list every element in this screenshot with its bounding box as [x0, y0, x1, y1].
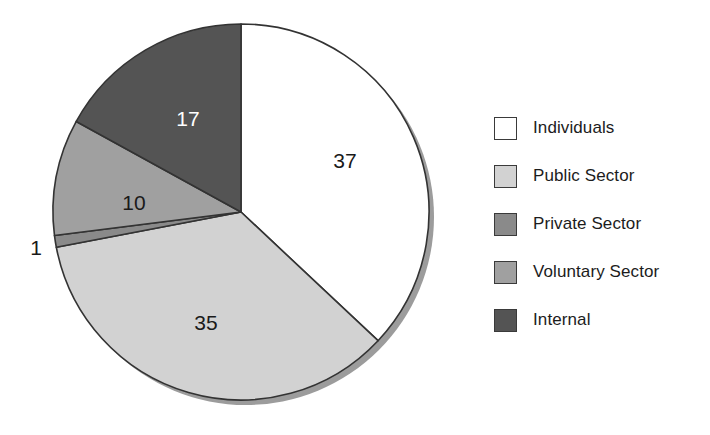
- pie-slices: [53, 24, 429, 400]
- legend-item-label: Individuals: [533, 118, 614, 138]
- legend-item-voluntary-sector[interactable]: Voluntary Sector: [494, 248, 704, 296]
- legend-item-label: Voluntary Sector: [533, 262, 659, 282]
- legend-swatch-icon: [494, 117, 517, 140]
- legend-item-private-sector[interactable]: Private Sector: [494, 200, 704, 248]
- legend-item-public-sector[interactable]: Public Sector: [494, 152, 704, 200]
- legend-item-label: Private Sector: [533, 214, 641, 234]
- legend-swatch-icon: [494, 309, 517, 332]
- legend-item-label: Internal: [533, 310, 591, 330]
- pie-slice-value-label: 1: [30, 236, 42, 259]
- pie-slice-value-label: 17: [176, 107, 199, 130]
- legend-item-internal[interactable]: Internal: [494, 296, 704, 344]
- pie-chart-figure: 373511017 Individuals Public Sector Priv…: [0, 0, 710, 435]
- pie-slice-value-label: 37: [333, 149, 356, 172]
- legend-swatch-icon: [494, 165, 517, 188]
- pie-slice-value-label: 35: [194, 311, 217, 334]
- legend-swatch-icon: [494, 213, 517, 236]
- legend-item-label: Public Sector: [533, 166, 634, 186]
- legend-swatch-icon: [494, 261, 517, 284]
- pie-slice-value-label: 10: [122, 191, 145, 214]
- chart-legend: Individuals Public Sector Private Sector…: [494, 104, 704, 344]
- legend-item-individuals[interactable]: Individuals: [494, 104, 704, 152]
